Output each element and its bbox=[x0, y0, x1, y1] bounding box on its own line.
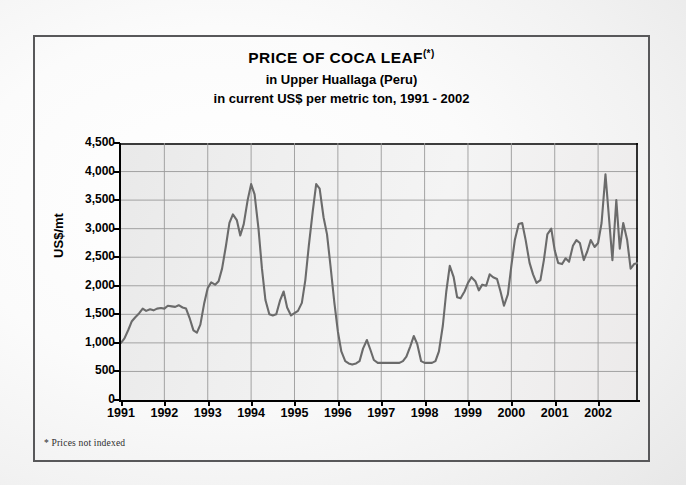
y-tick-mark-4500 bbox=[114, 142, 120, 144]
y-tick-mark-0 bbox=[114, 399, 120, 401]
chart-figure: PRICE OF COCA LEAF(*) in Upper Huallaga … bbox=[0, 0, 686, 485]
y-tick-mark-2500 bbox=[114, 256, 120, 258]
chart-title-block: PRICE OF COCA LEAF(*) in Upper Huallaga … bbox=[33, 44, 650, 108]
y-tick-mark-3500 bbox=[114, 199, 120, 201]
chart-title-footnote-marker: (*) bbox=[423, 48, 435, 59]
chart-title-line1: PRICE OF COCA LEAF(*) bbox=[33, 44, 650, 67]
chart-title-main: PRICE OF COCA LEAF bbox=[248, 49, 423, 66]
plot-area bbox=[121, 143, 638, 400]
x-tick-mark-2002 bbox=[598, 400, 600, 406]
x-tick-mark-1992 bbox=[164, 400, 166, 406]
y-axis-line bbox=[119, 143, 121, 402]
x-axis-line bbox=[119, 400, 640, 402]
y-tick-label-1000: 1,000 bbox=[53, 335, 115, 349]
x-tick-mark-1993 bbox=[208, 400, 210, 406]
chart-footnote: * Prices not indexed bbox=[44, 438, 125, 448]
x-tick-mark-2001 bbox=[555, 400, 557, 406]
x-tick-mark-1994 bbox=[251, 400, 253, 406]
y-tick-mark-1000 bbox=[114, 342, 120, 344]
chart-subtitle-line2: in current US$ per metric ton, 1991 - 20… bbox=[33, 89, 650, 108]
chart-subtitle-line1: in Upper Huallaga (Peru) bbox=[33, 70, 650, 89]
x-tick-mark-2000 bbox=[511, 400, 513, 406]
x-tick-label-2002: 2002 bbox=[572, 406, 624, 420]
x-tick-mark-1995 bbox=[294, 400, 296, 406]
y-tick-mark-1500 bbox=[114, 313, 120, 315]
y-axis-title: US$/mt bbox=[51, 176, 66, 296]
data-line-coca-price bbox=[121, 174, 638, 364]
x-tick-mark-1999 bbox=[468, 400, 470, 406]
y-tick-label-0: 0 bbox=[53, 392, 115, 406]
y-tick-mark-500 bbox=[114, 370, 120, 372]
y-tick-label-4500: 4,500 bbox=[53, 135, 115, 149]
y-tick-mark-4000 bbox=[114, 171, 120, 173]
gridlines bbox=[121, 143, 638, 400]
y-tick-mark-2000 bbox=[114, 285, 120, 287]
y-tick-label-1500: 1,500 bbox=[53, 306, 115, 320]
chart-canvas bbox=[121, 143, 638, 400]
x-tick-mark-1998 bbox=[425, 400, 427, 406]
x-axis-labels: 1991199219931994199519961997199819992000… bbox=[121, 406, 638, 426]
x-tick-mark-1997 bbox=[381, 400, 383, 406]
y-tick-label-500: 500 bbox=[53, 363, 115, 377]
x-tick-mark-1996 bbox=[338, 400, 340, 406]
x-tick-mark-1991 bbox=[121, 400, 123, 406]
y-tick-mark-3000 bbox=[114, 228, 120, 230]
